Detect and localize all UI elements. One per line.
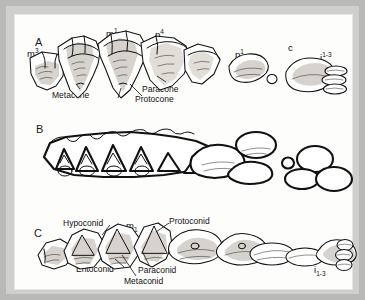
figure-root: A m3 m1 p4 p1 c i1-3 Metacone Paracone P… (0, 0, 365, 300)
panel-a-artwork (14, 14, 353, 109)
figure-plate: A m3 m1 p4 p1 c i1-3 Metacone Paracone P… (14, 14, 353, 290)
panel-b-artwork (14, 109, 353, 199)
panel-a: A m3 m1 p4 p1 c i1-3 Metacone Paracone P… (14, 14, 353, 109)
panel-b: B (14, 109, 353, 199)
panel-c: C m3 m1 p4 p1 i1-3 Hypoconid Protoconid … (14, 199, 353, 290)
panel-c-artwork (14, 199, 353, 290)
